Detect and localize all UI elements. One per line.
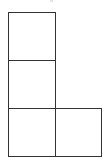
- cell-bottom-left: [8, 108, 56, 157]
- cell-top-left: [8, 12, 56, 61]
- cell-middle-left: [8, 60, 56, 109]
- l-shape-diagram: [0, 0, 107, 165]
- cell-bottom-right: [55, 108, 102, 157]
- artifact-speck: [50, 0, 53, 2]
